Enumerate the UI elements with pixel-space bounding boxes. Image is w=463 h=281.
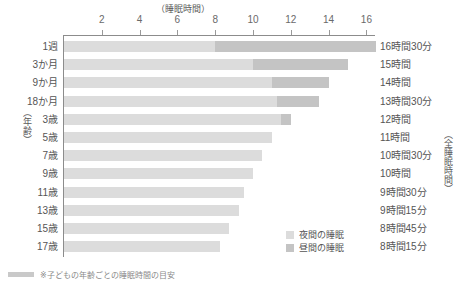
bar-segment-night bbox=[64, 187, 244, 198]
bar-segment-day bbox=[277, 96, 320, 107]
row-category-label: 7歳 bbox=[0, 147, 58, 164]
right-axis-title: （全睡眠時間） bbox=[443, 130, 452, 193]
x-tick-label: 14 bbox=[323, 14, 334, 25]
chart-row: 9か月14時間 bbox=[0, 74, 463, 91]
row-category-label: 3か月 bbox=[0, 56, 58, 73]
stacked-bar bbox=[64, 41, 376, 52]
chart-row: 3か月15時間 bbox=[0, 56, 463, 73]
x-tick-label: 4 bbox=[137, 14, 143, 25]
chart-row: 7歳10時間30分 bbox=[0, 147, 463, 164]
bar-segment-night bbox=[64, 132, 272, 143]
bar-segment-night bbox=[64, 150, 262, 161]
bar-segment-day bbox=[253, 59, 348, 70]
stacked-bar bbox=[64, 241, 220, 252]
x-axis-title: （睡眠時間） bbox=[0, 2, 366, 15]
footer-divider bbox=[8, 272, 34, 277]
chart-row: 17歳8時間15分 bbox=[0, 238, 463, 255]
row-category-label: 17歳 bbox=[0, 238, 58, 255]
stacked-bar bbox=[64, 187, 244, 198]
bar-segment-night bbox=[64, 77, 272, 88]
sleep-duration-chart: （睡眠時間） 246810121416 1週16時間30分3か月15時間9か月1… bbox=[0, 0, 463, 281]
row-category-label: 1週 bbox=[0, 38, 58, 55]
bar-segment-day bbox=[215, 41, 376, 52]
row-total-label: 11時間 bbox=[380, 129, 410, 146]
x-tick-mark bbox=[177, 30, 178, 35]
row-total-label: 10時間 bbox=[380, 165, 411, 182]
legend-item: 夜間の睡眠 bbox=[286, 228, 344, 241]
bar-segment-day bbox=[281, 114, 290, 125]
x-tick-label: 6 bbox=[175, 14, 181, 25]
x-tick-mark bbox=[291, 30, 292, 35]
row-category-label: 13歳 bbox=[0, 202, 58, 219]
bar-segment-day bbox=[272, 77, 329, 88]
bar-segment-night bbox=[64, 59, 253, 70]
x-tick-label: 12 bbox=[285, 14, 296, 25]
y-axis-title: （年齢） bbox=[22, 108, 31, 144]
stacked-bar bbox=[64, 150, 262, 161]
stacked-bar bbox=[64, 96, 319, 107]
chart-row: 9歳10時間 bbox=[0, 165, 463, 182]
chart-row: 18か月13時間30分 bbox=[0, 93, 463, 110]
chart-row: 11歳9時間30分 bbox=[0, 184, 463, 201]
bar-segment-night bbox=[64, 114, 281, 125]
legend-swatch bbox=[286, 244, 294, 252]
x-tick-mark bbox=[329, 30, 330, 35]
row-total-label: 14時間 bbox=[380, 74, 411, 91]
row-total-label: 16時間30分 bbox=[380, 38, 432, 55]
row-category-label: 11歳 bbox=[0, 184, 58, 201]
row-total-label: 12時間 bbox=[380, 111, 411, 128]
x-tick-label: 2 bbox=[99, 14, 105, 25]
row-category-label: 9か月 bbox=[0, 74, 58, 91]
x-tick-mark bbox=[215, 30, 216, 35]
chart-legend: 夜間の睡眠昼間の睡眠 bbox=[286, 228, 344, 254]
bar-segment-night bbox=[64, 41, 215, 52]
row-category-label: 15歳 bbox=[0, 220, 58, 237]
x-tick-mark bbox=[102, 30, 103, 35]
bar-segment-night bbox=[64, 168, 253, 179]
legend-swatch bbox=[286, 231, 294, 239]
chart-row: 1週16時間30分 bbox=[0, 38, 463, 55]
bar-segment-night bbox=[64, 241, 220, 252]
x-axis-line bbox=[63, 35, 375, 36]
legend-label: 昼間の睡眠 bbox=[299, 241, 344, 254]
stacked-bar bbox=[64, 223, 229, 234]
legend-label: 夜間の睡眠 bbox=[299, 228, 344, 241]
chart-row: 13歳9時間15分 bbox=[0, 202, 463, 219]
stacked-bar bbox=[64, 205, 239, 216]
row-total-label: 15時間 bbox=[380, 56, 411, 73]
stacked-bar bbox=[64, 168, 253, 179]
row-category-label: 9歳 bbox=[0, 165, 58, 182]
row-total-label: 13時間30分 bbox=[380, 93, 432, 110]
x-tick-mark bbox=[366, 30, 367, 35]
chart-row: 15歳8時間45分 bbox=[0, 220, 463, 237]
bar-segment-night bbox=[64, 223, 229, 234]
bar-segment-night bbox=[64, 205, 239, 216]
chart-row: 5歳11時間 bbox=[0, 129, 463, 146]
row-total-label: 9時間15分 bbox=[380, 202, 427, 219]
bar-segment-night bbox=[64, 96, 277, 107]
chart-row: 3歳12時間 bbox=[0, 111, 463, 128]
row-total-label: 9時間30分 bbox=[380, 184, 427, 201]
row-total-label: 8時間45分 bbox=[380, 220, 427, 237]
x-tick-label: 16 bbox=[361, 14, 372, 25]
x-tick-mark bbox=[253, 30, 254, 35]
stacked-bar bbox=[64, 59, 348, 70]
legend-item: 昼間の睡眠 bbox=[286, 241, 344, 254]
stacked-bar bbox=[64, 114, 291, 125]
x-tick-mark bbox=[140, 30, 141, 35]
row-total-label: 10時間30分 bbox=[380, 147, 432, 164]
footer-note: ※子どもの年齢ごとの睡眠時間の目安 bbox=[40, 269, 175, 280]
x-tick-label: 10 bbox=[247, 14, 258, 25]
stacked-bar bbox=[64, 132, 272, 143]
x-tick-label: 8 bbox=[212, 14, 218, 25]
row-total-label: 8時間15分 bbox=[380, 238, 427, 255]
stacked-bar bbox=[64, 77, 329, 88]
